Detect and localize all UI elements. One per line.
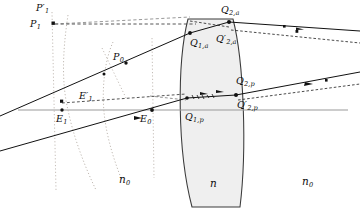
label-p0: P0 (113, 52, 124, 63)
label-q2a-prime: Q′2,a (216, 34, 237, 45)
dotted-dropper-p1 (52, 12, 56, 190)
dot-exit-lower (325, 79, 328, 82)
label-q2a: Q2,a (221, 5, 239, 16)
dot-p1 (52, 22, 55, 25)
label-n0-left: n0 (119, 174, 130, 186)
label-q2p: Q2,p (236, 76, 255, 87)
dashed-p1-upper-branch (55, 17, 190, 24)
label-q1a: Q1,a (190, 38, 208, 49)
dot-e1 (60, 108, 63, 111)
label-p1-prime: P′1 (36, 3, 49, 14)
label-e1: E1 (56, 114, 67, 125)
label-e0: E0 (140, 114, 151, 125)
ray-upper-incident (0, 33, 190, 116)
optical-ray-diagram: P′1 P1 P0 E′1 E1 E0 Q1,a Q2,a Q′2,a Q1,p… (0, 0, 362, 221)
ray-lower-incident (0, 98, 187, 151)
dot-e1-prime (60, 100, 63, 103)
dot-exit-upper (283, 25, 286, 28)
dot-q2a (227, 20, 231, 24)
dot-q1p (185, 96, 189, 100)
dot-exit-upper-dashed (296, 30, 299, 33)
dot-e0 (150, 108, 154, 112)
label-q2p-prime: Q′2,p (237, 100, 258, 111)
ray-upper-exit (229, 22, 360, 31)
label-e1-prime: E′1 (79, 91, 93, 102)
label-n-lens: n (210, 178, 217, 189)
dot-ray-upper-a (103, 73, 106, 76)
label-q1p: Q1,p (185, 112, 204, 123)
label-p1: P1 (30, 19, 41, 30)
dashed-exit-lower (238, 84, 360, 100)
label-n0-right: n0 (302, 176, 313, 188)
dot-q1a (188, 31, 192, 35)
dot-p0 (124, 61, 127, 64)
dot-q2p (234, 93, 238, 97)
